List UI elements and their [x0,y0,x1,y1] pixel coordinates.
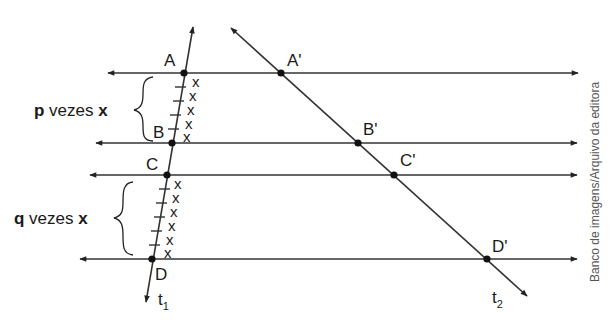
label-t1: t1 [158,290,169,312]
transversals [146,27,527,302]
label-a-prime: A' [287,51,302,70]
label-q-vezes-x: q vezes x [14,209,88,228]
label-c: C [146,155,158,174]
point-c-prime [390,171,397,178]
point-c [163,171,170,178]
image-credit: Banco de imagens/Arquivo da editora [588,82,602,282]
label-c-prime: C' [400,151,416,170]
label-b: B [153,123,164,142]
segment-marks-cd: x x x x x x [164,175,182,261]
label-t2: t2 [492,288,503,310]
transversal-t2 [231,28,527,296]
brace-cd [114,182,133,255]
label-p-vezes-x: p vezes x [34,101,108,120]
thales-theorem-diagram: x x x x x x x x x x x p vezes x q vezes … [0,0,613,324]
label-b-prime: B' [363,120,378,139]
point-b [168,139,175,146]
svg-text:x: x [164,244,172,261]
svg-text:x: x [183,128,191,145]
point-d-prime [483,255,490,262]
label-d-prime: D' [492,237,508,256]
point-a-prime [277,69,284,76]
label-d: D [155,265,167,284]
point-d [148,255,155,262]
point-a [180,69,187,76]
segment-marks-ab: x x x x x [183,73,200,145]
brace-ab [134,77,153,141]
point-b-prime [354,139,361,146]
label-a: A [164,51,176,70]
